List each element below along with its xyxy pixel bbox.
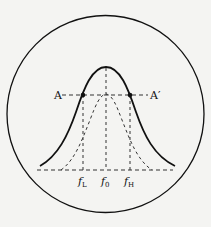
label-fl: fL <box>77 175 87 189</box>
point-a-dot <box>81 93 86 98</box>
label-fh: fH <box>123 175 134 189</box>
resonance-curve <box>40 67 175 166</box>
point-a-prime-dot <box>128 93 133 98</box>
label-f0: f0 <box>100 175 110 189</box>
label-a-prime: A′ <box>149 89 161 102</box>
diagram-canvas: A A′ fL f0 fH <box>0 0 211 227</box>
label-a: A <box>53 89 63 102</box>
